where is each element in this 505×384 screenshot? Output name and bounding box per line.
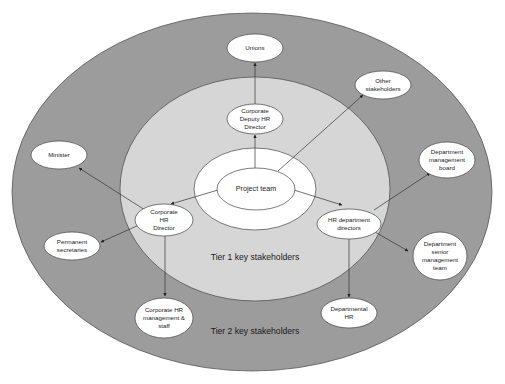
node-corporate-hr-director (135, 204, 193, 236)
node-department-senior-management-team (413, 232, 467, 280)
node-other-stakeholders (355, 71, 411, 99)
node-departmental-hr (321, 298, 377, 328)
node-minister (31, 141, 87, 169)
node-project-team (217, 168, 295, 210)
node-corporate-deputy-hr-director (227, 104, 283, 134)
node-hr-department-directors (317, 209, 381, 239)
tier2-label: Tier 2 key stakeholders (211, 326, 300, 336)
node-corporate-hr-management-staff (135, 298, 193, 338)
node-department-management-board (419, 142, 475, 178)
tier1-label: Tier 1 key stakeholders (211, 252, 300, 262)
node-unions (227, 34, 283, 62)
node-permanent-secretaries (44, 232, 100, 260)
